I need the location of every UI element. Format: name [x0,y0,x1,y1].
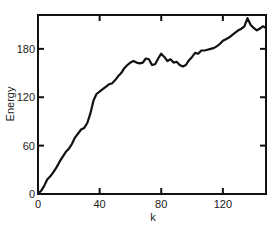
x-tick-label: 0 [35,198,41,210]
y-axis-label: Energy [4,86,16,121]
x-tick-label: 80 [155,198,167,210]
x-tick-label: 40 [93,198,105,210]
x-axis-label: k [150,211,156,223]
axis-ticks [38,15,266,194]
y-tick-label: 60 [23,140,35,152]
y-tick-label: 180 [17,43,35,55]
energy-line [38,18,266,194]
plot-frame [38,15,266,194]
energy-chart: 04080120060120180 k Energy [0,0,276,229]
y-tick-label: 0 [29,188,35,200]
x-tick-label: 120 [214,198,232,210]
y-tick-label: 120 [17,91,35,103]
